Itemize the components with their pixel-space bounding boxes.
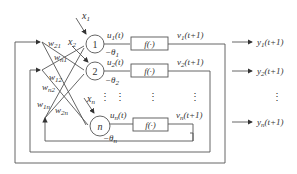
v-label-1: v1(t+1) (177, 30, 204, 42)
u-label-1: u1(t) (107, 30, 124, 42)
ellipsis-row: ⋮ ⋮ ⋮ ⋮ (100, 91, 200, 102)
hopfield-network-diagram: x1 x2 xn w21 wn1 w12 wn2 w1n w2n 1 u1(t)… (0, 0, 297, 174)
svg-text:⋮: ⋮ (100, 91, 110, 102)
weight-label-w1n: w1n (37, 99, 51, 111)
input-label-1: x1 (81, 10, 90, 23)
neuron-label-n: n (98, 121, 103, 132)
v-label-2: v2(t+1) (177, 57, 204, 69)
theta-label-n: −θn (103, 133, 118, 145)
svg-text:f(·): f(·) (144, 39, 155, 49)
neuron-label-2: 2 (93, 66, 98, 77)
svg-text:⋮: ⋮ (148, 91, 158, 102)
weight-label-w2n: w2n (55, 105, 69, 117)
weight-label-w12: w12 (49, 72, 63, 84)
neuron-label-1: 1 (93, 39, 98, 50)
output-ellipsis: ⋮ (272, 91, 282, 102)
svg-text:f(·): f(·) (144, 66, 155, 76)
u-label-n: un(t) (110, 110, 127, 122)
neuron-2: 2 u2(t) −θ2 f(·) v2(t+1) (86, 57, 208, 87)
v-label-n: vn(t+1) (176, 110, 203, 122)
svg-text:⋮: ⋮ (190, 91, 200, 102)
output-label-n: yn(t+1) (256, 117, 284, 129)
output-label-1: y1(t+1) (256, 37, 284, 49)
neuron-1: 1 u1(t) −θ1 f(·) v1(t+1) (86, 30, 208, 59)
svg-text:⋮: ⋮ (115, 91, 125, 102)
neuron-n: n un(t) −θn f(·) vn(t+1) (90, 110, 203, 145)
svg-text:f(·): f(·) (145, 120, 156, 130)
input-label-2: x2 (67, 36, 76, 49)
u-label-2: u2(t) (107, 57, 124, 69)
weight-label-w21: w21 (48, 38, 61, 50)
theta-label-2: −θ2 (105, 75, 120, 87)
feedback-loop-n (45, 118, 193, 141)
output-label-2: y2(t+1) (256, 66, 284, 78)
input-label-n: xn (86, 93, 95, 106)
